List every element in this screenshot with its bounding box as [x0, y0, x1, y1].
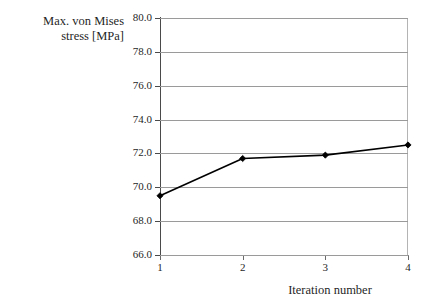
- gridline: [160, 18, 408, 19]
- x-axis-tick-label: 4: [397, 261, 419, 273]
- y-axis-tick: [155, 153, 160, 154]
- y-axis-tick-label: 70.0: [112, 181, 152, 192]
- gridline: [160, 187, 408, 188]
- plot-right-border: [407, 18, 408, 255]
- y-axis-tick: [155, 187, 160, 188]
- x-axis-tick: [160, 256, 161, 260]
- gridline: [160, 86, 408, 87]
- x-axis-tick: [408, 256, 409, 260]
- gridline: [160, 153, 408, 154]
- gridline: [160, 52, 408, 53]
- x-axis-title: Iteration number: [240, 283, 420, 297]
- y-axis-tick-labels: 66.068.070.072.074.076.078.080.0: [110, 0, 152, 304]
- x-axis-tick: [325, 256, 326, 260]
- plot-area: [160, 18, 408, 255]
- y-axis-tick-label: 72.0: [112, 147, 152, 158]
- gridline: [160, 221, 408, 222]
- y-axis-tick: [155, 120, 160, 121]
- x-axis-tick-label: 3: [314, 261, 336, 273]
- y-axis-tick-label: 76.0: [112, 80, 152, 91]
- y-axis-tick-label: 80.0: [112, 12, 152, 23]
- y-axis-tick: [155, 86, 160, 87]
- y-axis-title: Max. von Mises stress [MPa]: [8, 14, 124, 44]
- gridline: [160, 120, 408, 121]
- x-axis-tick-label: 1: [149, 261, 171, 273]
- y-axis-tick-label: 74.0: [112, 114, 152, 125]
- gridline: [160, 255, 408, 256]
- y-axis-tick-label: 78.0: [112, 46, 152, 57]
- y-axis-tick: [155, 52, 160, 53]
- y-axis-tick-label: 68.0: [112, 215, 152, 226]
- x-axis-tick: [243, 256, 244, 260]
- y-axis-tick-label: 66.0: [112, 249, 152, 260]
- x-axis-tick-label: 2: [232, 261, 254, 273]
- chart-figure: Max. von Mises stress [MPa] 66.068.070.0…: [0, 0, 432, 304]
- y-axis-tick: [155, 18, 160, 19]
- y-axis-tick: [155, 221, 160, 222]
